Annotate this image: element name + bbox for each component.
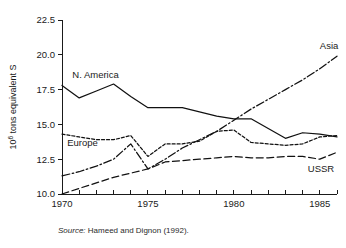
y-axis-title-text: 106 tons equivalent S: [7, 64, 19, 149]
y-tick-label: 15.0: [37, 119, 56, 130]
y-axis-title: 106 tons equivalent S: [7, 64, 19, 149]
series-line-europe: [62, 130, 337, 156]
chart-plot-area: 10.012.515.017.520.022.5 197019751980198…: [0, 0, 346, 248]
series-label-asia: Asia: [320, 40, 339, 51]
y-tick-label: 12.5: [37, 154, 56, 165]
series-line-n-america: [62, 84, 337, 138]
y-tick-label: 22.5: [37, 14, 56, 25]
x-axis: 1970197519801985: [51, 190, 337, 209]
x-tick-label: 1975: [137, 198, 158, 209]
y-tick-label: 20.0: [37, 49, 56, 60]
source-note: Source: Hameed and Dignon (1992).: [58, 226, 189, 235]
chart-figure: 10.012.515.017.520.022.5 197019751980198…: [0, 0, 346, 248]
y-tick-label: 17.5: [37, 84, 56, 95]
source-prefix: Source:: [58, 226, 86, 235]
x-tick-label: 1970: [51, 198, 72, 209]
series-label-ussr: USSR: [308, 163, 335, 174]
x-tick-label: 1980: [223, 198, 244, 209]
series-label-n-america: N. America: [72, 69, 119, 80]
y-axis: 10.012.515.017.520.022.5: [37, 14, 63, 199]
x-tick-label: 1985: [309, 198, 330, 209]
source-citation: Hameed and Dignon (1992).: [88, 226, 189, 235]
series-line-ussr: [62, 152, 337, 194]
series-annotations: N. AmericaEuropeAsiaUSSR: [67, 40, 339, 174]
series-label-europe: Europe: [67, 137, 98, 148]
